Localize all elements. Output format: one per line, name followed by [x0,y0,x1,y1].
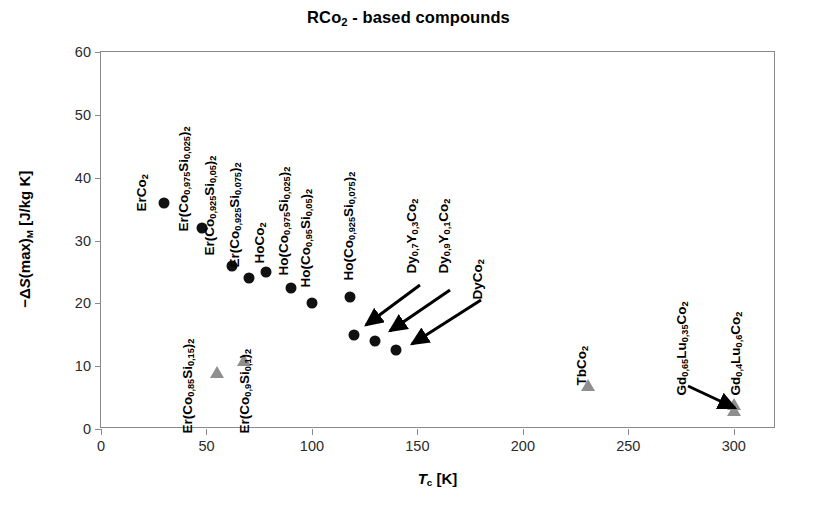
data-point-label: Dy0,7Y0,3Co2 [405,199,420,274]
data-point-label: Er(Co0,975Si0,025)2 [177,126,192,231]
data-point-marker [344,292,355,303]
data-point-label: Er(Co0,9Si0,1)2 [238,349,253,434]
data-point-marker [243,273,254,284]
data-point-label: ErCo2 [135,174,150,211]
y-tick-mark [95,303,101,304]
data-point-label: Er(Co0,925Si0,075)2 [228,162,243,267]
x-tick-label: 100 [300,439,324,454]
y-tick-mark [95,52,101,53]
y-axis-title-text: −ΔS(max)M [J/kg K] [16,171,34,308]
data-point-marker [210,366,224,378]
x-tick-label: 50 [198,439,214,454]
data-point-label: DyCo2 [471,259,486,299]
y-tick-mark [95,241,101,242]
y-tick-label: 30 [75,233,91,248]
x-tick-mark [312,429,313,435]
data-point-marker [727,404,741,416]
data-point-label: Er(Co0,85Si0,15)2 [181,339,196,434]
data-point-label: Ho(Co0,925Si0,075)2 [342,172,357,281]
data-point-label: Ho(Co0,975Si0,025)2 [277,167,292,276]
figure-root: RCo2 - based compounds −ΔS(max)M [J/kg K… [0,0,817,529]
data-point-label: Er(Co0,925Si0,05)2 [203,156,218,256]
data-point-label: Dy0,9Y0,1Co2 [437,199,452,274]
data-point-marker [306,298,317,309]
x-tick-mark [523,429,524,435]
x-tick-mark [101,429,102,435]
x-tick-label: 150 [405,439,429,454]
y-tick-label: 20 [75,296,91,311]
data-point-marker [370,336,381,347]
data-point-label: Gd0,65Lu0,35Co2 [675,301,690,395]
y-tick-label: 40 [75,170,91,185]
data-point-label: Ho(Co0,95Si0,05)2 [299,189,314,288]
x-tick-label: 300 [722,439,746,454]
x-tick-mark [734,429,735,435]
data-point-marker [391,345,402,356]
data-point-label: TbCo2 [575,346,590,386]
y-tick-label: 10 [75,359,91,374]
x-tick-label: 0 [97,439,105,454]
data-point-label: Gd0,4Lu0,6Co2 [729,312,744,396]
x-tick-mark [206,429,207,435]
data-point-marker [349,329,360,340]
y-tick-mark [95,115,101,116]
y-axis-title: −ΔS(max)M [J/kg K] [14,51,36,428]
data-point-marker [159,197,170,208]
y-tick-label: 50 [75,108,91,123]
data-point-label: HoCo2 [253,222,268,263]
y-tick-mark [95,178,101,179]
data-point-marker [260,266,271,277]
x-tick-mark [628,429,629,435]
x-tick-label: 250 [616,439,640,454]
chart-title: RCo2 - based compounds [0,8,817,28]
x-axis-title: Tc [K] [100,470,775,488]
y-tick-mark [95,366,101,367]
x-tick-mark [417,429,418,435]
x-tick-label: 200 [511,439,535,454]
y-tick-label: 60 [75,45,91,60]
y-tick-label: 0 [83,422,91,437]
data-point-marker [285,282,296,293]
